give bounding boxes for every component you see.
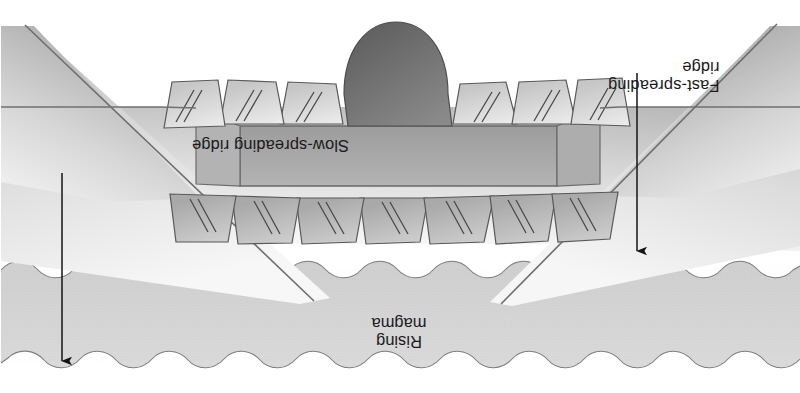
rising-magma-label: Rising magma <box>345 314 453 350</box>
fast-spreading-ridge-label: Fast-spreading ridge <box>608 58 719 94</box>
rising-magma-label-line2: magma <box>345 314 453 332</box>
fault-block <box>490 194 556 244</box>
fault-block <box>220 80 284 124</box>
fault-block <box>552 192 618 242</box>
fault-block <box>424 196 494 244</box>
fault-block <box>512 80 576 124</box>
rift-valley-floor-texture <box>240 126 557 186</box>
rising-magma-label-line1: Rising <box>345 332 453 350</box>
fault-block <box>360 198 428 244</box>
slow-spreading-ridge-label: Slow-spreading ridge <box>192 136 349 154</box>
fault-block <box>280 82 343 124</box>
fault-block <box>164 80 225 128</box>
fault-block <box>170 194 236 242</box>
fault-block <box>232 196 300 244</box>
fast-spreading-ridge-label-line2: ridge <box>608 58 719 76</box>
slow-spreading-ridge-label-text: Slow-spreading ridge <box>192 137 349 155</box>
magma-chamber-texture <box>344 22 452 126</box>
fault-block <box>296 198 364 244</box>
fast-spreading-ridge-label-line1: Fast-spreading <box>608 76 719 94</box>
fault-block <box>453 82 517 124</box>
